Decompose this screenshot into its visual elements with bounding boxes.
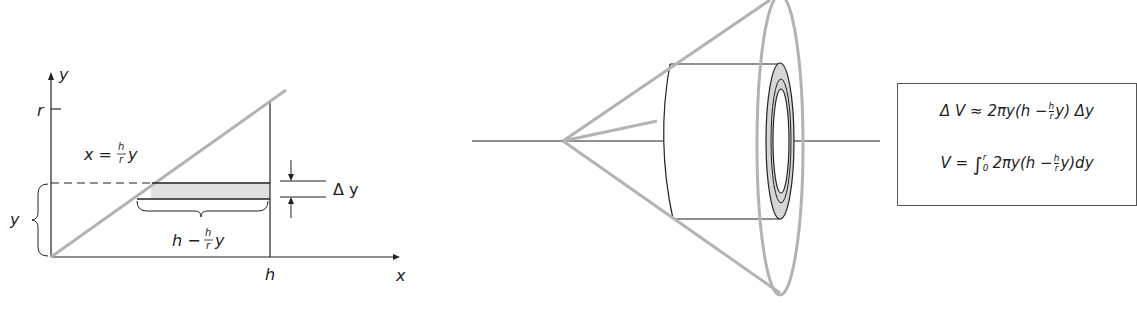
svg-text:r: r bbox=[206, 240, 211, 251]
arrow-up-icon bbox=[288, 197, 294, 204]
svg-text:y: y bbox=[127, 145, 138, 164]
shell-strip bbox=[151, 183, 270, 199]
svg-text:h: h bbox=[205, 227, 211, 238]
svg-text:x =: x = bbox=[83, 145, 112, 164]
volume-integral-formula: V = ∫r02πy(h −hry)dy bbox=[898, 152, 1136, 175]
integral-sign-icon: ∫ bbox=[973, 153, 983, 175]
y-axis-arrow-icon bbox=[48, 72, 54, 80]
svg-text:h: h bbox=[118, 141, 124, 152]
formula-box: Δ V ≈ 2πy(h −hry) Δy V = ∫r02πy(h −hry)d… bbox=[897, 83, 1137, 206]
line-equation: x = h r y bbox=[83, 141, 138, 165]
cone-edge-line bbox=[51, 90, 286, 257]
svg-text:r: r bbox=[119, 154, 124, 165]
strip-length-brace bbox=[137, 201, 268, 217]
fraction-h-over-r: hr bbox=[1049, 102, 1055, 121]
strip-length-label: h − h r y bbox=[172, 227, 225, 251]
cone-lower-edge bbox=[563, 141, 780, 293]
y-brace-label: y bbox=[9, 210, 20, 229]
cone-upper-edge bbox=[563, 0, 770, 141]
h-tick-label: h bbox=[265, 265, 275, 284]
left-plot: y r h x y Δ y x = h r y h − h r y bbox=[9, 65, 406, 285]
delta-v-formula: Δ V ≈ 2πy(h −hry) Δy bbox=[898, 102, 1136, 121]
svg-text:h −: h − bbox=[172, 231, 201, 250]
y-brace bbox=[32, 184, 48, 256]
cylinder-back-edge bbox=[664, 64, 673, 219]
x-axis-arrow-icon bbox=[393, 254, 400, 260]
arrow-down-icon bbox=[288, 174, 294, 181]
delta-y-label: Δ y bbox=[333, 180, 359, 199]
fraction-h-over-r: hr bbox=[1054, 154, 1060, 173]
svg-text:y: y bbox=[214, 231, 225, 250]
shell-inner-hole bbox=[773, 89, 789, 193]
cone-shell-diagram bbox=[472, 0, 880, 295]
r-tick-label: r bbox=[37, 101, 45, 120]
x-axis-label: x bbox=[395, 266, 406, 285]
y-axis-label: y bbox=[58, 65, 69, 84]
integral-limits: r0 bbox=[983, 152, 989, 174]
